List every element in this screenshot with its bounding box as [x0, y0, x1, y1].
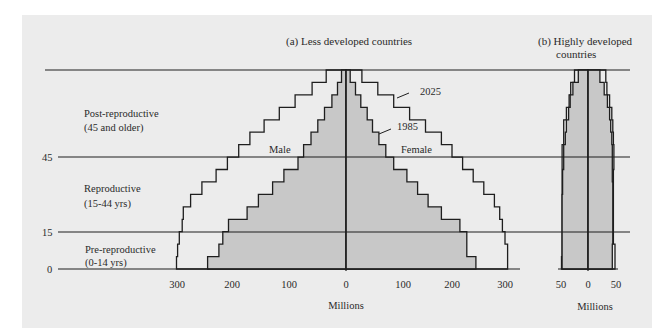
pyramid-b-shapes: [558, 70, 618, 271]
label-post-reproductive: Post-reproductive: [84, 108, 159, 119]
xtick-a-left-100: 100: [281, 279, 297, 290]
xlabel-b: Millions: [577, 301, 613, 312]
xtick-a-left-200: 200: [224, 279, 240, 290]
xtick-b-left-50: 50: [556, 279, 567, 290]
label-pre-reproductive: Pre-reproductive: [85, 244, 156, 255]
bars-1985-female: [346, 70, 476, 269]
xtick-a-0: 0: [343, 279, 348, 290]
pointer-2025: [397, 93, 409, 98]
label-post-reproductive-range: (45 and older): [84, 122, 144, 134]
xtick-a-left-300: 300: [169, 279, 185, 290]
panel-b-title-line1: (b) Highly developed: [538, 35, 633, 48]
xtick-a-right-100: 100: [395, 279, 411, 290]
pointer-1985: [379, 129, 391, 134]
xtick-b-0: 0: [585, 279, 590, 290]
xtick-b-right-50: 50: [611, 279, 622, 290]
xlabel-a: Millions: [328, 300, 364, 311]
bars-1985-male: [208, 70, 346, 269]
label-2025: 2025: [420, 86, 441, 97]
bars-b-1985-male: [562, 70, 588, 269]
population-pyramid-chart: 45 15 0 (a) Less developed countries (b)…: [0, 0, 668, 333]
ytick-0: 0: [47, 264, 52, 275]
xtick-a-right-200: 200: [444, 279, 460, 290]
label-male: Male: [269, 144, 291, 155]
pyramid-a-shapes: [177, 70, 521, 271]
xtick-a-right-300: 300: [497, 279, 513, 290]
label-pre-reproductive-range: (0-14 yrs): [85, 257, 127, 269]
label-1985: 1985: [397, 121, 418, 132]
label-reproductive-range: (15-44 yrs): [84, 198, 131, 210]
panel-a-title: (a) Less developed countries: [286, 35, 412, 48]
ytick-45: 45: [42, 152, 53, 163]
ytick-15: 15: [42, 227, 53, 238]
label-female: Female: [401, 144, 432, 155]
panel-b-title-line2: countries: [556, 48, 596, 60]
label-reproductive: Reproductive: [84, 183, 141, 194]
